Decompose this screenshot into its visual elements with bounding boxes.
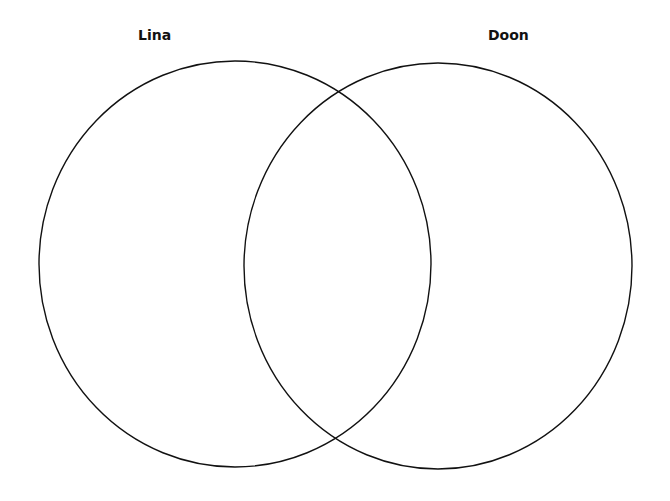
set-circle-lina (39, 61, 431, 467)
venn-diagram (0, 0, 670, 501)
set-circle-doon (244, 63, 632, 469)
